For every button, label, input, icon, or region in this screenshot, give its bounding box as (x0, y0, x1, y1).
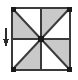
load-arrow-down (3, 28, 9, 47)
node-center (38, 36, 44, 42)
node-corner-top-left (11, 7, 16, 12)
mesh-diagram (0, 0, 78, 80)
load-arrow-head-icon (3, 39, 9, 47)
node-corner-bottom-left (11, 67, 16, 72)
node-corner-top-right (67, 7, 72, 12)
node-corner-bottom-right (67, 67, 72, 72)
figure-root: Square subdivided into eight triangles w… (0, 0, 78, 80)
